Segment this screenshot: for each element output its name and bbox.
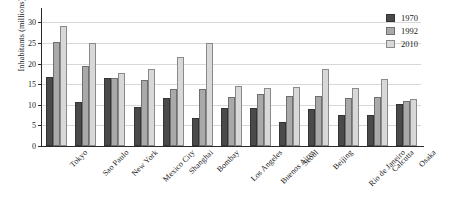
legend-item: 2010	[386, 37, 458, 50]
bar	[134, 107, 141, 146]
bar	[53, 42, 60, 146]
legend-swatch-icon	[386, 14, 395, 22]
bar	[257, 94, 264, 146]
x-tick-label: Sao Paulo	[100, 148, 130, 178]
bar	[192, 118, 199, 146]
bar	[177, 57, 184, 147]
bar	[396, 104, 403, 146]
x-tick-label: Seoul	[300, 148, 320, 168]
bar-group	[275, 14, 304, 146]
bar	[322, 69, 329, 146]
plot-area: 051015202530	[42, 14, 421, 146]
bar-group	[334, 14, 363, 146]
bar	[367, 115, 374, 146]
y-axis-title: Inhabitants (millions)	[15, 0, 29, 95]
bar	[89, 43, 96, 146]
bar-group	[159, 14, 188, 146]
bar	[148, 69, 155, 146]
y-tick-label: 0	[32, 142, 36, 151]
bar	[199, 89, 206, 146]
bar	[206, 43, 213, 146]
bar	[60, 26, 67, 146]
bar	[403, 101, 410, 146]
bar	[75, 102, 82, 146]
y-tick-label: 10	[28, 100, 36, 109]
y-tick-label: 5	[32, 121, 36, 130]
bar-group	[246, 14, 275, 146]
bar-group	[188, 14, 217, 146]
bar	[352, 88, 359, 146]
bar	[345, 98, 352, 146]
bar	[46, 77, 53, 146]
bar	[111, 78, 118, 146]
bar	[221, 108, 228, 146]
x-tick-label: Beijing	[331, 148, 355, 172]
x-axis-labels: TokyoSao PauloNew YorkMexico CityShangha…	[42, 148, 421, 202]
bar	[104, 78, 111, 146]
bar	[250, 108, 257, 146]
bar	[82, 66, 89, 146]
y-tick-label: 25	[28, 38, 36, 47]
x-axis-line	[41, 146, 424, 147]
x-tick-label: Tokyo	[68, 148, 89, 169]
bar-group	[42, 14, 71, 146]
bar	[410, 99, 417, 146]
bar	[374, 97, 381, 146]
bar	[293, 87, 300, 146]
bar	[264, 88, 271, 146]
legend-item: 1992	[386, 24, 458, 37]
y-tick-label: 30	[28, 18, 36, 27]
bar	[118, 73, 125, 146]
bar	[279, 122, 286, 146]
bar	[170, 89, 177, 146]
bar	[338, 115, 345, 146]
bar	[163, 98, 170, 146]
bar-group	[129, 14, 158, 146]
bar-group	[100, 14, 129, 146]
x-tick-label: Osaka	[417, 148, 438, 169]
legend-label: 1970	[401, 13, 418, 23]
bar-group	[217, 14, 246, 146]
y-tick-label: 15	[28, 80, 36, 89]
bar-group	[304, 14, 333, 146]
bar	[381, 79, 388, 146]
bar	[235, 86, 242, 146]
bar	[308, 109, 315, 146]
legend-label: 2010	[401, 39, 418, 49]
x-tick-label: New York	[130, 148, 160, 178]
legend-swatch-icon	[386, 27, 395, 35]
bar	[141, 80, 148, 146]
bar	[286, 96, 293, 146]
bar	[315, 96, 322, 146]
bar	[228, 97, 235, 147]
bar-group	[71, 14, 100, 146]
legend-swatch-icon	[386, 40, 395, 48]
legend-item: 1970	[386, 11, 458, 24]
x-tick-label: Bombay	[215, 148, 241, 174]
legend-label: 1992	[401, 26, 418, 36]
chart-legend: 197019922010	[386, 11, 458, 50]
y-tick-label: 20	[28, 59, 36, 68]
bar-chart: Inhabitants (millions) 051015202530 Toky…	[0, 0, 464, 202]
y-tick-mark	[38, 146, 42, 147]
plot-inner: 051015202530	[42, 14, 421, 146]
